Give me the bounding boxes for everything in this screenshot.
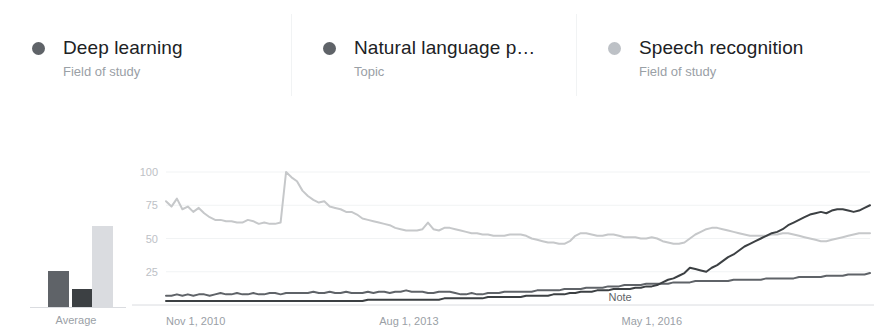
- legend-title: Natural language p…: [354, 36, 535, 59]
- legend-dot-speech-recognition: [608, 42, 621, 55]
- x-axis-tick-label: Aug 1, 2013: [379, 315, 438, 327]
- y-axis-tick-label: 100: [140, 166, 158, 178]
- average-bar: [48, 271, 69, 307]
- legend-subtitle: Field of study: [639, 62, 803, 81]
- average-baseline: [30, 307, 126, 308]
- x-axis-tick-label: May 1, 2016: [621, 315, 682, 327]
- legend-dot-natural-language-processing: [323, 42, 336, 55]
- legend-title: Speech recognition: [639, 36, 803, 59]
- average-bar: [92, 226, 113, 307]
- charts-row: Average 255075100Nov 1, 2010Aug 1, 2013M…: [0, 150, 874, 335]
- series-line: [166, 273, 870, 296]
- note-annotation: Note: [608, 291, 631, 303]
- legend-card-speech-recognition[interactable]: Speech recognition Field of study: [576, 14, 874, 96]
- average-bars-area: [20, 177, 132, 307]
- legend-subtitle: Field of study: [63, 62, 183, 81]
- average-bar-chart: Average: [20, 150, 132, 335]
- x-axis-tick-label: Nov 1, 2010: [166, 315, 225, 327]
- legend-title: Deep learning: [63, 36, 183, 59]
- trends-svg: 255075100Nov 1, 2010Aug 1, 2013May 1, 20…: [132, 150, 874, 335]
- y-axis-tick-label: 50: [146, 233, 158, 245]
- y-axis-tick-label: 25: [146, 266, 158, 278]
- legend-dot-deep-learning: [32, 42, 45, 55]
- legend-subtitle: Topic: [354, 62, 535, 81]
- series-legend: Deep learning Field of study Natural lan…: [0, 14, 874, 96]
- series-line: [166, 172, 870, 244]
- legend-card-deep-learning[interactable]: Deep learning Field of study: [0, 14, 291, 96]
- series-line: [166, 205, 870, 301]
- legend-card-natural-language-processing[interactable]: Natural language p… Topic: [291, 14, 576, 96]
- y-axis-tick-label: 75: [146, 199, 158, 211]
- average-bar: [72, 289, 93, 307]
- trends-line-chart[interactable]: 255075100Nov 1, 2010Aug 1, 2013May 1, 20…: [132, 150, 874, 335]
- average-label: Average: [20, 314, 132, 326]
